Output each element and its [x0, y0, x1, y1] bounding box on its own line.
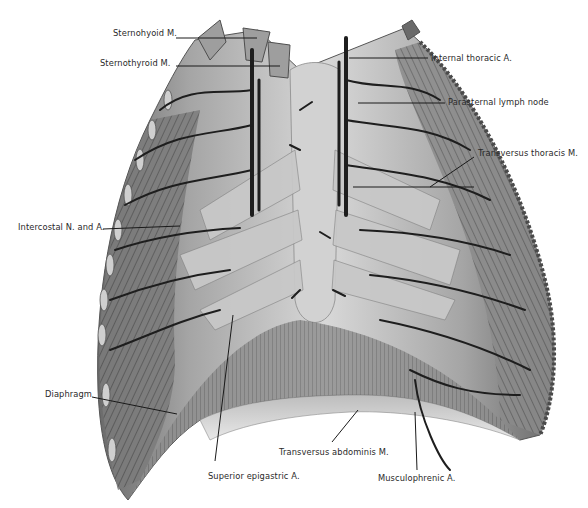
label-sternothyroid: Sternothyroid M. [100, 58, 171, 68]
label-parasternal-lymph-node: Parasternal lymph node [448, 97, 549, 107]
leader-musculophrenic [415, 412, 417, 470]
label-internal-thoracic: Internal thoracic A. [431, 53, 512, 63]
label-superior-epigastric: Superior epigastric A. [208, 471, 300, 481]
label-sternohyoid: Sternohyoid M. [113, 28, 177, 38]
label-transversus-thoracis: Transversus thoracis M. [478, 148, 578, 158]
label-diaphragm: Diaphragm [45, 389, 92, 399]
label-intercostal: Intercostal N. and A. [18, 222, 105, 232]
leader-transversus-abdominis [332, 410, 358, 442]
label-transversus-abdominis: Transversus abdominis M. [279, 447, 389, 457]
label-musculophrenic: Musculophrenic A. [378, 473, 455, 483]
anatomical-illustration: Sternohyoid M. Sternothyroid M. Internal… [0, 0, 588, 508]
thoracic-wall-drawing [0, 0, 588, 508]
